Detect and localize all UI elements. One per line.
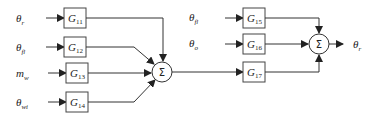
input-label-theta-wi: θwi: [16, 96, 28, 111]
block-g12: G12: [64, 37, 86, 57]
input-label-theta-fl: θfl: [16, 41, 25, 56]
svg-text:Σ: Σ: [159, 67, 165, 78]
input-label-theta-r: θr: [16, 12, 24, 27]
summing-junction-2: Σ: [309, 34, 329, 54]
arrow-g15-sum2: [265, 18, 319, 33]
input-label-theta-fl-2: θfl: [189, 11, 198, 26]
arrow-g17-sum2: [265, 55, 319, 72]
block-g13: G13: [66, 63, 88, 83]
arrow-g12-sum1: [86, 47, 154, 64]
block-g11: G11: [64, 8, 86, 28]
block-g16: G16: [243, 34, 265, 54]
input-label-m-w: mw: [16, 67, 29, 82]
output-label-theta-r: θr: [353, 38, 361, 53]
summing-junction-1: Σ: [152, 62, 172, 82]
block-g15: G15: [243, 8, 265, 28]
arrow-g11-sum1: [86, 18, 163, 61]
block-diagram: θr θfl mw θwi G11 G12 G13 G14 Σ θfl θo G…: [0, 0, 377, 120]
svg-text:Σ: Σ: [316, 39, 322, 50]
block-g14: G14: [66, 92, 88, 112]
arrow-g14-sum1: [88, 80, 155, 102]
input-label-theta-o: θo: [189, 37, 198, 52]
block-g17: G17: [243, 62, 265, 82]
